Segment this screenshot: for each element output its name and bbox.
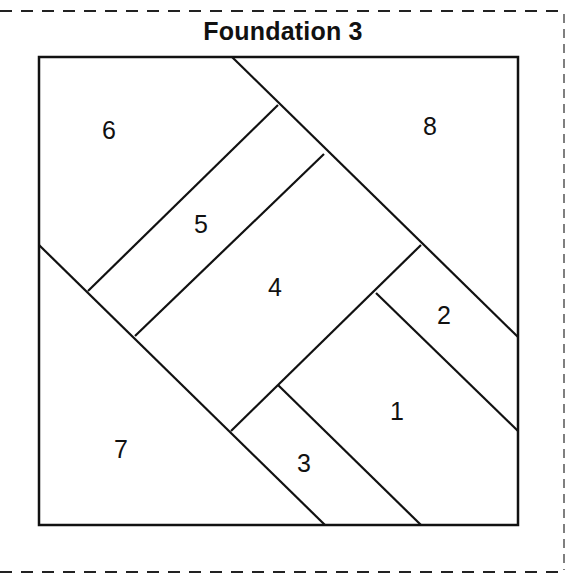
seam-6 <box>88 105 278 291</box>
piece-label-1: 1 <box>390 399 404 424</box>
piece-label-7: 7 <box>114 437 128 462</box>
foundation-diagram <box>0 0 566 578</box>
piece-label-2: 2 <box>437 303 451 328</box>
seam-7 <box>39 245 325 525</box>
piece-label-3: 3 <box>297 451 311 476</box>
piece-label-4: 4 <box>268 275 282 300</box>
piece-label-6: 6 <box>102 118 116 143</box>
seam-5 <box>135 154 324 336</box>
piece-label-5: 5 <box>194 212 208 237</box>
piece-label-8: 8 <box>423 114 437 139</box>
